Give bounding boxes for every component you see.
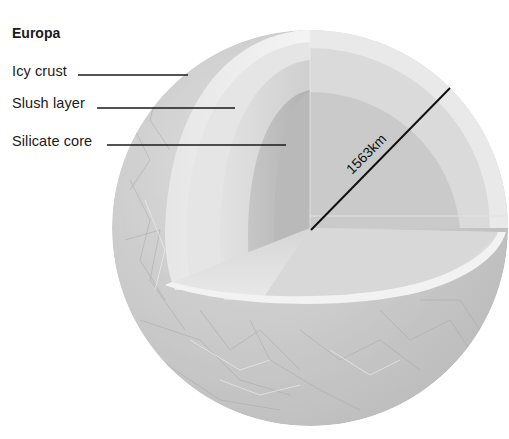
- europa-cutaway-illustration: 1563km: [0, 0, 509, 439]
